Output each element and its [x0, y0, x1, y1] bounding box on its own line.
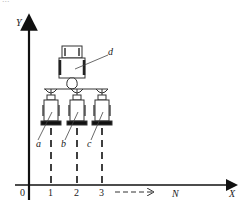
y-axis-label: Y [16, 17, 23, 28]
diagram: Y 0 1 2 3 N X d [0, 0, 245, 208]
implement-c-label: c [87, 138, 92, 149]
x-axis: 0 1 2 3 N X [15, 185, 236, 199]
implement-b [65, 95, 87, 140]
hitch-frame [44, 89, 108, 95]
implement-b-label: b [61, 138, 66, 149]
x-tick-1: 1 [48, 187, 53, 198]
tractor-label: d [108, 46, 114, 57]
origin-label: 0 [20, 187, 25, 198]
x-axis-label: X [228, 188, 236, 199]
implement-a-label: a [36, 138, 41, 149]
tractor [59, 46, 108, 89]
implement-a [38, 95, 61, 140]
guide-lines [51, 128, 102, 185]
x-tick-3: 3 [99, 187, 104, 198]
direction-label: N [171, 188, 180, 199]
x-tick-2: 2 [74, 187, 79, 198]
y-axis: Y [16, 17, 29, 200]
